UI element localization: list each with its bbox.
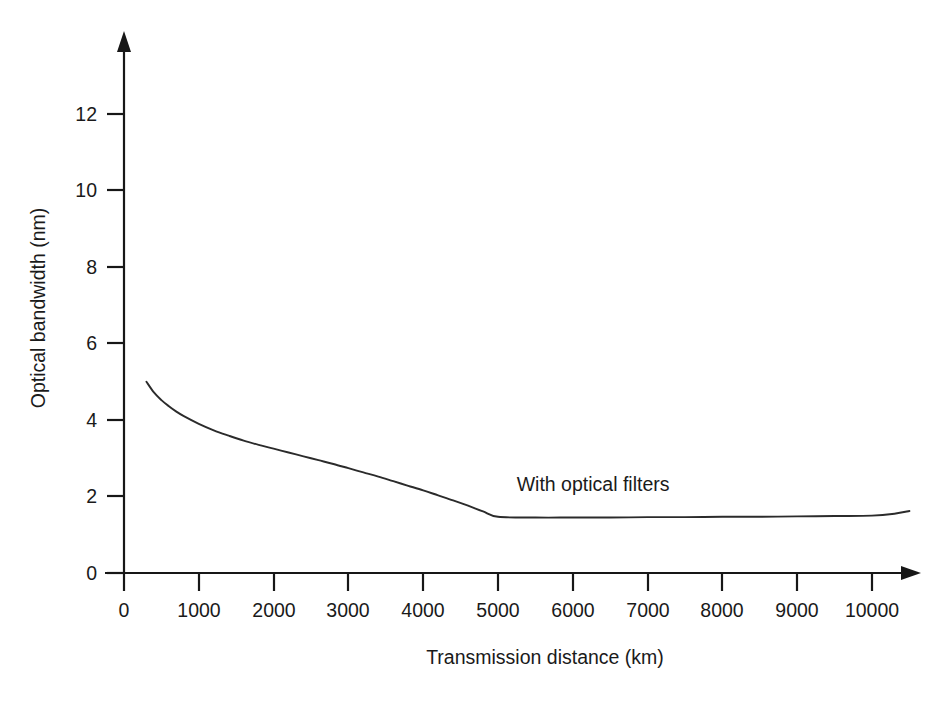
series-annotation-with-optical-filters: With optical filters xyxy=(517,473,670,495)
x-tick-label-5000: 5000 xyxy=(476,599,520,621)
x-tick-label-8000: 8000 xyxy=(700,599,744,621)
optical-bandwidth-chart: 0 2 4 6 8 10 12 0 1000 2000 300 xyxy=(0,0,940,703)
chart-background xyxy=(0,0,940,703)
x-tick-label-4000: 4000 xyxy=(401,599,445,621)
x-tick-label-0: 0 xyxy=(119,599,130,621)
y-tick-label-0: 0 xyxy=(86,562,97,584)
chart-figure: 0 2 4 6 8 10 12 0 1000 2000 300 xyxy=(0,0,940,703)
y-tick-label-4: 4 xyxy=(86,409,97,431)
x-tick-label-9000: 9000 xyxy=(775,599,819,621)
x-tick-label-10000: 10000 xyxy=(845,599,899,621)
y-tick-label-10: 10 xyxy=(75,179,97,201)
y-axis-title: Optical bandwidth (nm) xyxy=(27,208,49,409)
y-tick-label-8: 8 xyxy=(86,256,97,278)
x-tick-label-3000: 3000 xyxy=(326,599,370,621)
x-axis-title: Transmission distance (km) xyxy=(426,646,664,668)
y-tick-label-12: 12 xyxy=(75,103,97,125)
y-tick-label-2: 2 xyxy=(86,485,97,507)
x-tick-label-6000: 6000 xyxy=(551,599,595,621)
x-tick-label-2000: 2000 xyxy=(252,599,296,621)
x-tick-label-7000: 7000 xyxy=(626,599,670,621)
x-tick-label-1000: 1000 xyxy=(177,599,221,621)
y-tick-label-6: 6 xyxy=(86,332,97,354)
